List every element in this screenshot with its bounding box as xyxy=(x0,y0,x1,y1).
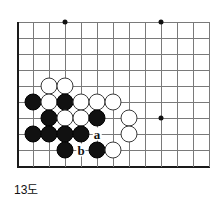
star-point xyxy=(63,20,68,25)
black-stone[interactable] xyxy=(89,110,106,127)
black-stone[interactable] xyxy=(73,126,90,143)
black-stone[interactable] xyxy=(57,126,74,143)
star-point xyxy=(159,116,164,121)
grid-line-vertical xyxy=(161,22,162,167)
white-stone[interactable] xyxy=(121,110,138,127)
white-stone[interactable] xyxy=(121,126,138,143)
figure-caption: 13도 xyxy=(14,180,38,197)
go-diagram-figure: ab 13도 xyxy=(0,0,217,205)
black-stone[interactable] xyxy=(57,94,74,111)
black-stone[interactable] xyxy=(25,94,42,111)
grid-line-vertical xyxy=(145,22,146,167)
grid-line-vertical xyxy=(129,22,130,167)
white-stone[interactable] xyxy=(105,94,122,111)
white-stone[interactable] xyxy=(89,94,106,111)
white-stone[interactable] xyxy=(41,78,58,95)
point-label-a: a xyxy=(93,128,102,141)
black-stone[interactable] xyxy=(57,142,74,159)
grid-line-vertical xyxy=(177,22,178,167)
point-label-b: b xyxy=(76,144,85,157)
black-stone[interactable] xyxy=(25,126,42,143)
go-board[interactable]: ab xyxy=(0,0,217,180)
star-point xyxy=(159,20,164,25)
grid-line-vertical xyxy=(17,22,19,167)
white-stone[interactable] xyxy=(41,94,58,111)
white-stone[interactable] xyxy=(73,94,90,111)
black-stone[interactable] xyxy=(41,126,58,143)
grid-line-vertical xyxy=(209,22,210,167)
white-stone[interactable] xyxy=(57,78,74,95)
black-stone[interactable] xyxy=(41,110,58,127)
white-stone[interactable] xyxy=(105,142,122,159)
black-stone[interactable] xyxy=(89,142,106,159)
grid-line-vertical xyxy=(193,22,194,167)
white-stone[interactable] xyxy=(73,110,90,127)
white-stone[interactable] xyxy=(57,110,74,127)
